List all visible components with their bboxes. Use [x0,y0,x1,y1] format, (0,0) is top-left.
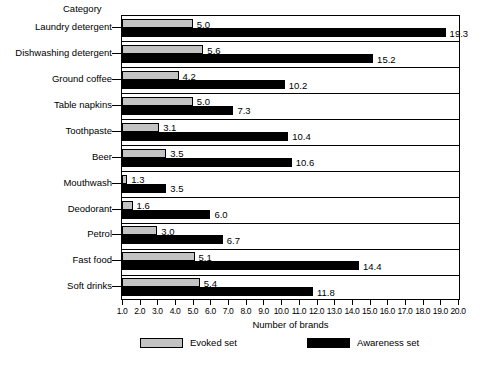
bar-group: 3.06.7 [122,223,459,249]
bar-evoked [122,123,159,132]
x-tick [352,300,353,305]
x-tick-label: 19.0 [433,306,448,316]
bar-awareness [122,106,233,115]
x-tick [387,300,388,305]
x-tick [423,300,424,305]
bar-awareness [122,54,373,63]
category-label: Fast food [72,255,112,265]
legend-label: Awareness set [357,337,419,348]
category-label: Ground coffee [52,74,112,84]
bar-evoked [122,45,203,54]
category-label: Table napkins [54,100,112,110]
bar-awareness [122,287,313,296]
category-label: Beer [92,152,112,162]
x-tick [246,300,247,305]
category-axis-labels: Laundry detergentDishwashing detergentGr… [0,15,112,300]
bar-awareness [122,132,288,141]
x-tick-label: 18.0 [415,306,430,316]
legend-label: Evoked set [190,337,237,348]
bar-group: 4.210.2 [122,68,459,94]
category-tick [112,53,121,54]
bar-awareness [122,158,292,167]
bar-group: 3.510.6 [122,146,459,172]
x-tick-label: 5.0 [187,306,198,316]
bar-group: 5.411.8 [122,275,459,301]
x-tick [157,300,158,305]
category-label: Soft drinks [67,281,112,291]
x-tick [210,300,211,305]
category-tick [112,183,121,184]
bar-group: 5.019.3 [122,16,459,42]
category-tick [112,286,121,287]
x-tick-label: 1.0 [117,306,128,316]
bar-group: 1.66.0 [122,197,459,223]
bar-value-label: 15.2 [377,55,396,65]
x-tick [440,300,441,305]
bar-value-label: 10.2 [289,81,308,91]
x-tick [193,300,194,305]
x-tick [317,300,318,305]
x-tick-label: 7.0 [223,306,234,316]
category-label: Laundry detergent [35,22,112,32]
x-tick-label: 20.0 [451,306,466,316]
bar-group: 1.33.5 [122,171,459,197]
legend-swatch [307,338,350,348]
x-tick-label: 6.0 [205,306,216,316]
x-axis-title: Number of brands [121,319,460,330]
category-label: Petrol [87,229,112,239]
x-tick-label: 14.0 [344,306,359,316]
category-tick [112,209,121,210]
bar-evoked [122,278,200,287]
bar-awareness [122,184,166,193]
bar-evoked [122,201,133,210]
legend-item: Evoked set [140,337,237,348]
bar-value-label: 10.4 [292,132,311,142]
x-tick-label: 12.0 [309,306,324,316]
bar-evoked [122,97,193,106]
x-tick-label: 2.0 [134,306,145,316]
chart-legend: Evoked setAwareness set [0,337,488,353]
bar-value-label: 3.5 [170,184,183,194]
y-axis-title: Category [63,3,102,14]
bar-awareness [122,235,223,244]
x-tick-label: 15.0 [362,306,377,316]
x-tick [175,300,176,305]
legend-item: Awareness set [307,337,419,348]
bar-awareness [122,28,446,37]
x-tick [405,300,406,305]
category-tick [112,79,121,80]
x-tick-label: 3.0 [152,306,163,316]
x-tick-label: 9.0 [258,306,269,316]
category-tick [112,131,121,132]
bar-group: 5.07.3 [122,94,459,120]
bar-value-label: 6.0 [214,210,227,220]
x-tick-label: 4.0 [170,306,181,316]
category-label: Toothpaste [66,126,112,136]
x-tick-label: 16.0 [380,306,395,316]
x-tick [458,300,459,305]
x-tick-label: 8.0 [240,306,251,316]
bar-chart: Category Laundry detergentDishwashing de… [0,0,488,369]
bar-value-label: 19.3 [450,29,469,39]
bar-evoked [122,71,179,80]
x-tick [122,300,123,305]
category-tick [112,260,121,261]
bar-evoked [122,175,127,184]
x-tick-label: 13.0 [327,306,342,316]
bar-awareness [122,210,210,219]
x-tick [281,300,282,305]
category-tick [112,27,121,28]
legend-swatch [140,338,183,348]
x-tick-label: 10.0 [274,306,289,316]
bar-value-label: 6.7 [227,236,240,246]
bar-evoked [122,226,157,235]
bar-evoked [122,149,166,158]
x-tick-label: 17.0 [397,306,412,316]
bar-evoked [122,19,193,28]
bar-value-label: 10.6 [296,158,315,168]
category-tick [112,234,121,235]
category-tick [112,157,121,158]
bar-value-label: 7.3 [237,106,250,116]
bar-value-label: 14.4 [363,262,382,272]
x-axis-tick-labels: 1.02.03.04.05.06.07.08.09.010.011.012.01… [0,306,488,318]
